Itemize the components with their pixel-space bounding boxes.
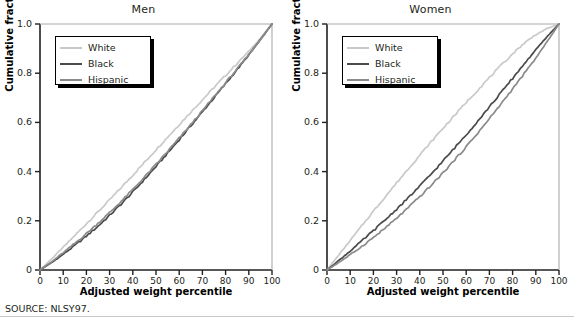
legend-item-hispanic: Hispanic — [347, 72, 437, 87]
y-tick-label: 0.8 — [297, 68, 319, 77]
legend-swatch-white-icon — [60, 47, 82, 49]
x-tick-label: 80 — [216, 277, 236, 286]
y-tick-label: 0.4 — [10, 167, 32, 176]
x-tick-label: 100 — [549, 277, 569, 286]
figure-bottom-rule — [0, 316, 574, 317]
y-tick-label: 0.2 — [10, 216, 32, 225]
x-tick-label: 0 — [317, 277, 337, 286]
legend-men: WhiteBlackHispanic — [55, 36, 151, 85]
legend-swatch-black-icon — [347, 63, 369, 65]
panel-women: Women Cumulative fraction Adjusted weigh… — [287, 0, 574, 300]
x-tick-label: 30 — [387, 277, 407, 286]
x-tick-label: 40 — [123, 277, 143, 286]
y-tick-label: 1.0 — [297, 19, 319, 28]
legend-swatch-black-icon — [60, 63, 82, 65]
x-tick-label: 60 — [169, 277, 189, 286]
legend-item-hispanic: Hispanic — [60, 72, 150, 87]
legend-item-white: White — [60, 40, 150, 55]
legend-item-white: White — [347, 40, 437, 55]
legend-swatch-hispanic-icon — [60, 79, 82, 81]
x-tick-label: 50 — [433, 277, 453, 286]
x-tick-label: 20 — [363, 277, 383, 286]
x-tick-label: 0 — [30, 277, 50, 286]
panel-men: Men Cumulative fraction Adjusted weight … — [0, 0, 287, 300]
legend-label: Black — [88, 59, 114, 69]
legend-item-black: Black — [347, 56, 437, 71]
legend-swatch-white-icon — [347, 47, 369, 49]
x-tick-label: 30 — [100, 277, 120, 286]
legend-label: Black — [375, 59, 401, 69]
legend-item-black: Black — [60, 56, 150, 71]
x-tick-label: 40 — [410, 277, 430, 286]
y-tick-label: 0.8 — [10, 68, 32, 77]
x-tick-label: 20 — [76, 277, 96, 286]
x-tick-label: 50 — [146, 277, 166, 286]
legend-label: White — [375, 43, 403, 53]
x-tick-label: 70 — [479, 277, 499, 286]
x-tick-label: 10 — [340, 277, 360, 286]
legend-label: Hispanic — [88, 75, 128, 85]
figure-cumulative-weight-percentile: Men Cumulative fraction Adjusted weight … — [0, 0, 574, 323]
y-tick-label: 0.6 — [10, 117, 32, 126]
y-tick-label: 0 — [297, 265, 319, 274]
y-tick-label: 0.2 — [297, 216, 319, 225]
legend-label: Hispanic — [375, 75, 415, 85]
x-tick-label: 10 — [53, 277, 73, 286]
source-note: SOURCE: NLSY97. — [5, 303, 90, 314]
x-tick-label: 80 — [503, 277, 523, 286]
legend-swatch-hispanic-icon — [347, 79, 369, 81]
x-tick-label: 60 — [456, 277, 476, 286]
y-tick-label: 0.6 — [297, 117, 319, 126]
x-tick-label: 70 — [192, 277, 212, 286]
y-tick-label: 0.4 — [297, 167, 319, 176]
x-tick-label: 90 — [526, 277, 546, 286]
y-tick-label: 0 — [10, 265, 32, 274]
y-tick-label: 1.0 — [10, 19, 32, 28]
legend-label: White — [88, 43, 116, 53]
x-tick-label: 90 — [239, 277, 259, 286]
legend-women: WhiteBlackHispanic — [342, 36, 438, 85]
x-tick-label: 100 — [262, 277, 282, 286]
